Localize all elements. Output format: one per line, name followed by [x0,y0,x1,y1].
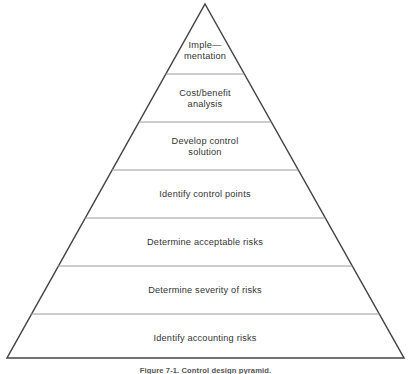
pyramid-figure: Imple— mentation Cost/benefit analysis D… [0,0,411,374]
pyramid-graphic [0,0,411,374]
figure-caption: Figure 7-1. Control design pyramid. [0,366,411,374]
pyramid-outline [7,4,404,358]
